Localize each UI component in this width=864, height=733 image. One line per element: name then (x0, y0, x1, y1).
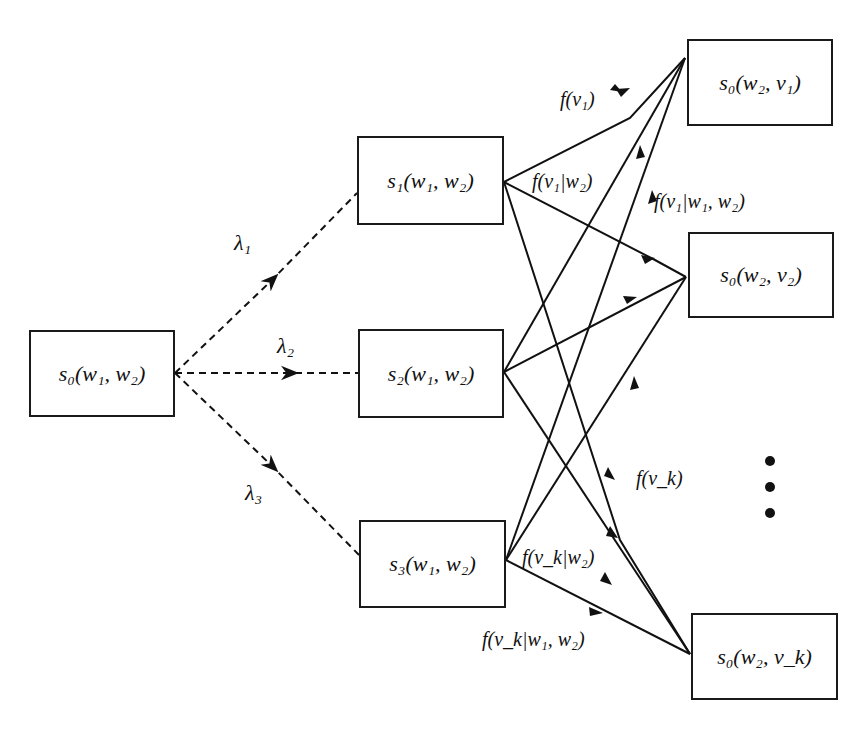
source-node-s0: s₀(w₁, w₂) (29, 330, 175, 417)
lambda1-label: λ₁ (234, 230, 251, 256)
edge-label-f-vk-w2: f(v_k|w₂) (522, 546, 594, 569)
edge-label-f-v1: f(v₁) (560, 88, 595, 111)
ellipsis-dot-1 (765, 456, 775, 466)
middle-node-s2: s₂(w₁, w₂) (358, 329, 504, 418)
dashed-edge-lambda3 (175, 373, 359, 555)
middle-node-s3: s₃(w₁, w₂) (359, 520, 506, 608)
edge-label-f-vk: f(v_k) (636, 467, 683, 490)
edge-label-f-vk-w1w2: f(v_k|w₁, w₂) (482, 628, 585, 651)
lambda2-label: λ₂ (277, 333, 294, 359)
edge-label-f-v1-w1w2: f(v₁|w₁, w₂) (654, 190, 745, 213)
lambda3-label: λ₃ (245, 480, 262, 506)
edge-s3-v2 (506, 277, 686, 560)
dashed-edge-lambda1 (175, 193, 357, 373)
target-node-v2: s₀(w₂, v₂) (688, 232, 834, 318)
ellipsis-dot-3 (765, 508, 775, 518)
edge-label-f-v1-w2: f(v₁|w₂) (532, 170, 593, 193)
target-node-v1: s₀(w₂, v₁) (687, 39, 833, 126)
target-node-vk: s₀(w₂, v_k) (691, 613, 838, 700)
edge-s1-v1 (504, 58, 685, 182)
middle-node-s1: s₁(w₁, w₂) (357, 136, 504, 225)
ellipsis-dot-2 (765, 482, 775, 492)
